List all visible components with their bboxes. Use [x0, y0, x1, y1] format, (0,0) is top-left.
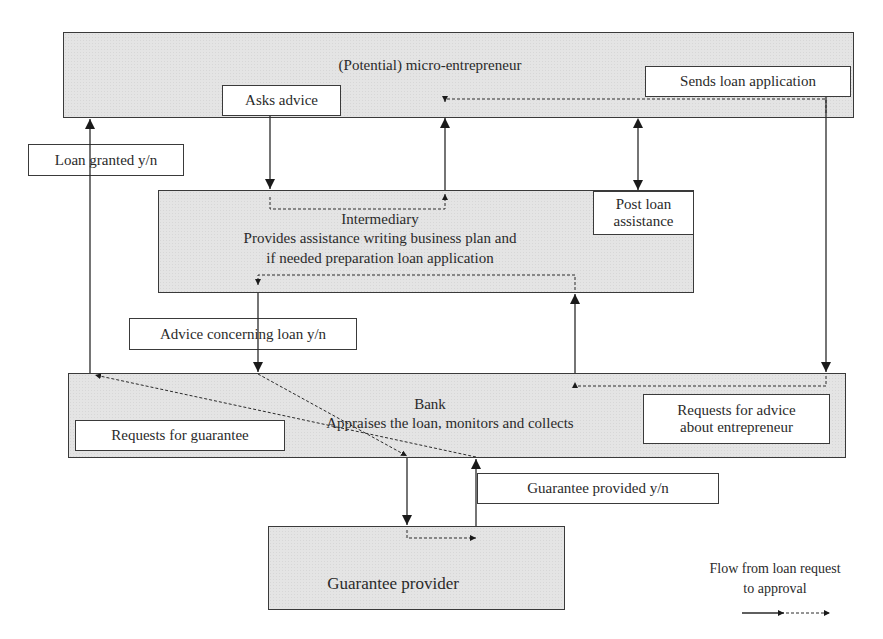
entrepreneur-title: (Potential) micro-entrepreneur — [280, 56, 580, 74]
guarantee-provided-label: Guarantee provided y/n — [477, 473, 719, 504]
guarantee-provider-title: Guarantee provider — [268, 575, 518, 593]
legend-text-line1: Flow from loan request — [690, 560, 860, 577]
legend-text-line2: to approval — [690, 580, 860, 597]
post-loan-line1: Post loan — [616, 196, 671, 213]
asks-advice-label: Asks advice — [222, 85, 341, 116]
bank-title: Bank — [360, 395, 500, 413]
bank-description: Appraises the loan, monitors and collect… — [280, 414, 620, 432]
intermediary-description-line1: Provides assistance writing business pla… — [160, 229, 600, 247]
post-loan-assistance-label: Post loan assistance — [593, 191, 694, 235]
loan-granted-label: Loan granted y/n — [28, 144, 184, 176]
requests-for-advice-label: Requests for advice about entrepreneur — [643, 394, 830, 444]
post-loan-line2: assistance — [614, 213, 674, 230]
requests-advice-line2: about entrepreneur — [680, 419, 793, 436]
advice-concerning-loan-label: Advice concerning loan y/n — [129, 318, 357, 350]
requests-advice-line1: Requests for advice — [677, 402, 795, 419]
requests-for-guarantee-label: Requests for guarantee — [75, 420, 285, 451]
sends-loan-application-label: Sends loan application — [645, 66, 851, 97]
guarantee-provider-node — [268, 526, 565, 610]
intermediary-title: Intermediary — [200, 210, 560, 228]
intermediary-description-line2: if needed preparation loan application — [180, 249, 580, 267]
